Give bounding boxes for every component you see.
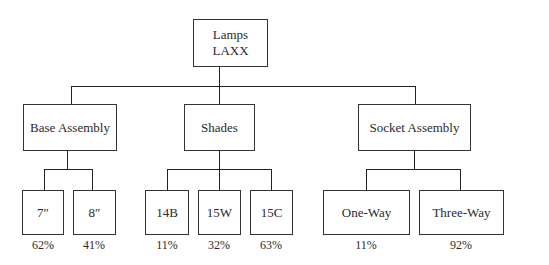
percent-one-way: 11% xyxy=(341,238,391,253)
node-one-way: One-Way xyxy=(323,190,410,235)
connector-shades-down xyxy=(219,151,220,170)
connector-to-one-way xyxy=(366,169,367,190)
connector-to-base xyxy=(71,86,72,105)
connector-socket-bar xyxy=(366,169,461,170)
node-15w: 15W xyxy=(198,190,241,235)
15c-label: 15C xyxy=(261,205,283,221)
connector-to-14b xyxy=(167,169,168,190)
connector-to-8in xyxy=(92,169,93,190)
shades-label: Shades xyxy=(201,120,238,136)
one-way-label: One-Way xyxy=(342,205,392,221)
connector-root-down xyxy=(219,67,220,86)
connector-socket-down xyxy=(414,151,415,170)
percent-15c: 63% xyxy=(246,238,296,253)
node-socket-assembly: Socket Assembly xyxy=(358,104,471,151)
connector-to-15w xyxy=(219,169,220,190)
connector-base-down xyxy=(67,151,68,170)
connector-to-three-way xyxy=(460,169,461,190)
connector-to-7in xyxy=(44,169,45,190)
15w-label: 15W xyxy=(207,205,232,221)
14b-label: 14B xyxy=(156,205,178,221)
connector-to-15c xyxy=(271,169,272,190)
connector-to-socket xyxy=(415,86,416,105)
8in-label: 8″ xyxy=(89,205,101,221)
connector-base-bar xyxy=(44,169,93,170)
percent-three-way: 92% xyxy=(436,238,486,253)
node-8in: 8″ xyxy=(73,190,116,235)
node-14b: 14B xyxy=(145,190,189,235)
three-way-label: Three-Way xyxy=(432,205,490,221)
node-three-way: Three-Way xyxy=(419,190,504,235)
percent-8in: 41% xyxy=(69,238,119,253)
base-assembly-label: Base Assembly xyxy=(30,120,110,136)
node-7in: 7″ xyxy=(22,190,64,235)
7in-label: 7″ xyxy=(37,205,49,221)
connector-level1-bar xyxy=(71,86,416,87)
root-label-line2: LAXX xyxy=(212,43,248,59)
node-15c: 15C xyxy=(250,190,293,235)
root-node-lamps: Lamps LAXX xyxy=(193,19,268,67)
root-label-line1: Lamps xyxy=(213,27,248,43)
socket-assembly-label: Socket Assembly xyxy=(370,120,460,136)
node-shades: Shades xyxy=(184,104,255,151)
connector-to-shades xyxy=(219,86,220,105)
node-base-assembly: Base Assembly xyxy=(23,104,117,151)
percent-7in: 62% xyxy=(18,238,68,253)
percent-14b: 11% xyxy=(142,238,192,253)
percent-15w: 32% xyxy=(194,238,244,253)
